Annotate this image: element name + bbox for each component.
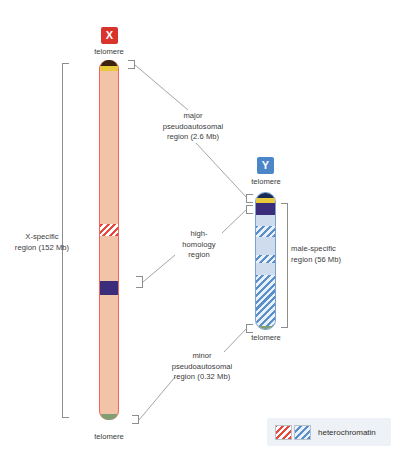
- major-pseudoautosomal-region-label: major pseudoautosomal region (2.6 Mb): [145, 111, 241, 143]
- y-heterochromatin-band-1: [256, 226, 275, 237]
- y-high-homology-bracket: [246, 205, 253, 214]
- chromosome-y-badge: Y: [257, 157, 274, 174]
- y-bottom-telomere-label: telomere: [231, 333, 301, 342]
- chromosome-y-body: [255, 192, 276, 330]
- y-bottom-par-bracket: [246, 324, 253, 333]
- x-high-homology-bracket: [136, 276, 143, 288]
- male-specific-region-label: male-specific region (56 Mb): [291, 244, 383, 265]
- legend-label: heterochromatin: [318, 428, 376, 437]
- xy-chromosome-diagram: X telomere telomere X-specific region (1…: [0, 0, 401, 476]
- x-gold-band: [100, 66, 118, 71]
- blue-hatch-swatch: [294, 425, 311, 440]
- x-bottom-telomere-label: telomere: [74, 432, 144, 441]
- minor-pseudoautosomal-region-label: minor pseudoautosomal region (0.32 Mb): [152, 351, 252, 383]
- x-bottom-telomere-cap: [100, 414, 118, 420]
- chromosome-x-body: [99, 60, 119, 420]
- x-dark-band: [100, 281, 118, 295]
- y-heterochromatin-band-2: [256, 255, 275, 263]
- x-top-par-bracket: [128, 60, 135, 69]
- legend: heterochromatin: [267, 418, 391, 446]
- y-heterochromatin-band-3: [256, 275, 275, 326]
- x-top-telomere-label: telomere: [74, 47, 144, 56]
- x-specific-region-label: X-specific region (152 Mb): [12, 232, 72, 253]
- red-hatch-swatch: [275, 425, 292, 440]
- male-specific-region-bracket: [281, 203, 288, 328]
- y-top-par-bracket: [246, 194, 253, 203]
- chromosome-x-badge: X: [101, 27, 118, 44]
- x-heterochromatin-band: [100, 224, 118, 236]
- y-top-telomere-label: telomere: [231, 177, 301, 186]
- y-bottom-telomere-cap: [256, 326, 275, 330]
- y-dark-band: [256, 203, 275, 215]
- x-bottom-par-bracket: [132, 415, 139, 424]
- high-homology-region-label: high- homology region: [173, 229, 225, 261]
